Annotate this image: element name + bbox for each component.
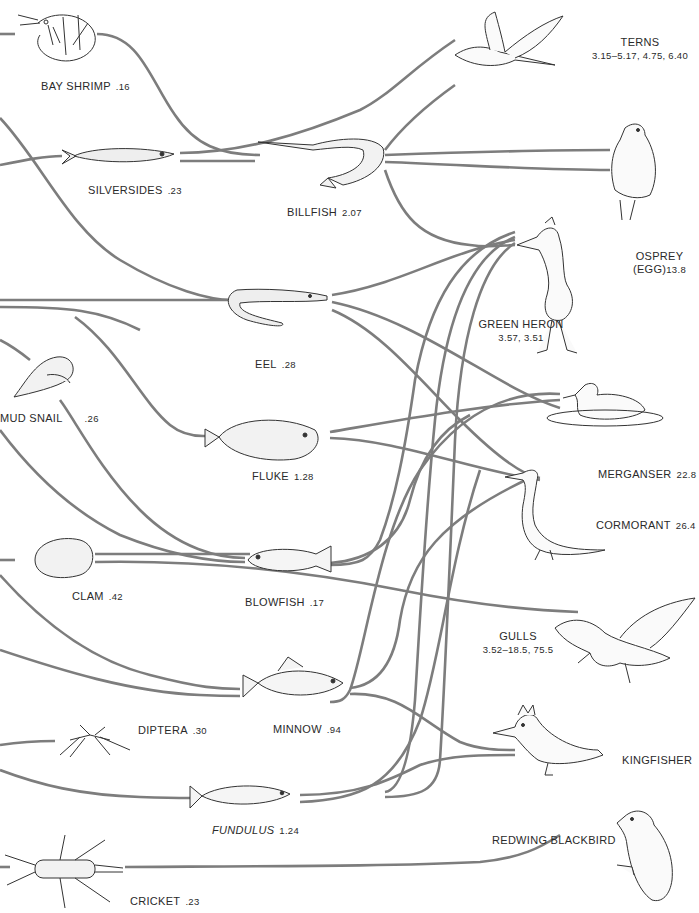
- clam-illustration: [30, 535, 98, 580]
- kingfisher-bird-icon: [493, 705, 608, 785]
- bay-shrimp-label: BAY SHRIMP.16: [41, 80, 130, 93]
- mud-snail-illustration: [12, 355, 77, 400]
- pufferfish-icon: [246, 542, 336, 578]
- kingfisher-label: KINGFISHER: [622, 754, 692, 767]
- blackbird-icon: [612, 805, 687, 905]
- gulls-label: GULLS 3.52–18.5, 75.5: [468, 630, 568, 656]
- billfish-label: BILLFISH2.07: [287, 206, 362, 219]
- osprey-bird-icon: [600, 120, 670, 220]
- diptera-label: DIPTERA.30: [138, 724, 207, 737]
- merganser-illustration: [545, 380, 665, 440]
- osprey-illustration: [600, 120, 670, 220]
- silversides-fish-icon: [62, 142, 177, 170]
- flounder-icon: [205, 415, 325, 463]
- bay-shrimp-illustration: [18, 5, 98, 70]
- terns-label: TERNS 3.15–5.17, 4.75, 6.40: [585, 36, 695, 62]
- redwing-blackbird-illustration: [612, 805, 687, 905]
- fluke-illustration: [205, 415, 325, 463]
- merganser-bird-icon: [545, 380, 665, 440]
- gulls-illustration: [550, 598, 699, 688]
- cormorant-illustration: [505, 465, 615, 560]
- minnow-label: MINNOW.94: [273, 723, 341, 736]
- cormorant-label: CORMORANT26.4: [596, 519, 696, 532]
- cricket-label: CRICKET.23: [130, 895, 200, 908]
- redwing-blackbird-label: REDWING BLACKBIRD: [492, 834, 616, 847]
- tern-bird-icon: [455, 10, 565, 80]
- blowfish-label: BLOWFISH.17: [245, 596, 324, 609]
- silversides-label: SILVERSIDES.23: [88, 184, 182, 197]
- eel-icon: [222, 278, 332, 333]
- terns-illustration: [455, 10, 565, 80]
- kingfisher-illustration: [493, 705, 608, 785]
- green-heron-label: GREEN HERON 3.57, 3.51: [466, 318, 576, 344]
- minnow-illustration: [243, 655, 348, 710]
- clam-label: CLAM.42: [72, 590, 123, 603]
- eel-label: EEL.28: [255, 358, 296, 371]
- gull-bird-icon: [550, 598, 699, 688]
- food-web-diagram: BAY SHRIMP.16 SILVERSIDES.23 BILLFISH2.0…: [0, 0, 699, 913]
- cricket-illustration: [5, 830, 125, 910]
- cricket-icon: [5, 830, 125, 910]
- cormorant-bird-icon: [505, 465, 615, 560]
- eel-illustration: [222, 278, 332, 333]
- diptera-illustration: [50, 725, 135, 760]
- mud-snail-label: MUD SNAIL.26: [0, 412, 99, 425]
- minnow-fish-icon: [243, 655, 348, 710]
- mosquito-icon: [50, 725, 135, 760]
- fluke-label: FLUKE1.28: [252, 470, 314, 483]
- shrimp-icon: [18, 5, 98, 70]
- snail-shell-icon: [12, 355, 77, 400]
- osprey-label: OSPREY (EGG)13.8: [620, 250, 699, 276]
- blowfish-illustration: [246, 542, 336, 578]
- fundulus-illustration: [190, 780, 295, 812]
- billfish-icon: [258, 130, 388, 190]
- clam-shell-icon: [30, 535, 98, 580]
- fundulus-label: FUNDULUS1.24: [212, 824, 299, 837]
- billfish-illustration: [258, 130, 388, 190]
- killifish-icon: [190, 780, 295, 812]
- silversides-illustration: [62, 142, 177, 170]
